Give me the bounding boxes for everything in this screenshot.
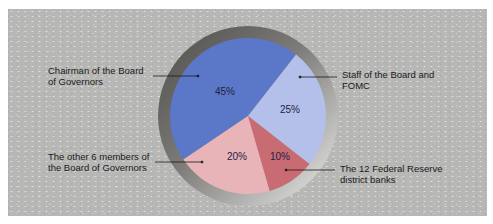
label-other-members: The other 6 members of the Board of Gove… — [48, 151, 149, 173]
pie-slices — [170, 38, 326, 194]
label-staff: Staff of the Board and FOMC — [342, 69, 434, 91]
pie-chart — [0, 0, 493, 224]
label-other-line1: The other 6 members of — [48, 151, 149, 162]
label-chairman-line2: of Governors — [48, 76, 144, 87]
label-fed-line1: The 12 Federal Reserve — [340, 163, 442, 174]
label-federal-banks: The 12 Federal Reserve district banks — [340, 163, 442, 185]
label-staff-line2: FOMC — [342, 80, 434, 91]
label-other-line2: the Board of Governors — [48, 162, 149, 173]
pct-chairman: 45% — [215, 86, 235, 97]
label-chairman-line1: Chairman of the Board — [48, 65, 144, 76]
pct-staff: 25% — [280, 104, 300, 115]
label-chairman: Chairman of the Board of Governors — [48, 65, 144, 87]
label-staff-line1: Staff of the Board and — [342, 69, 434, 80]
pct-fed: 10% — [270, 151, 290, 162]
label-fed-line2: district banks — [340, 174, 442, 185]
pct-other: 20% — [227, 151, 247, 162]
